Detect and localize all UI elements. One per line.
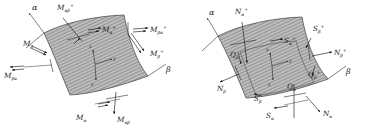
vector-m-ba-plus: Mβα+ <box>128 22 167 35</box>
triad-label-z-left: z <box>90 82 94 87</box>
vector-m-ba: Mβα <box>3 59 53 81</box>
axis-label-alpha-right: α <box>209 8 215 17</box>
figure-root: α β x y z Mαβ+ <box>0 0 367 128</box>
vector-m-b: Mβ <box>22 39 47 55</box>
triad-label-x-right: x <box>266 47 269 52</box>
label-s-b-plus: Sβ+ <box>313 24 324 34</box>
label-m-b-plus: Mβ+ <box>149 49 164 59</box>
label-m-ba: Mβα <box>3 71 17 81</box>
panel-moment-resultants: α β x y z Mαβ+ <box>0 0 184 128</box>
vector-m-a: Mα <box>75 99 120 123</box>
label-n-b-plus: Nβ+ <box>333 48 347 58</box>
vector-n-a: Nα <box>306 96 332 119</box>
label-m-a: Mα <box>75 113 86 123</box>
label-m-ab: Mαβ <box>116 115 130 125</box>
label-m-ba-plus: Mβα+ <box>149 25 167 35</box>
panel-force-resultants: α β x y z Nα+ Sα+ <box>184 0 367 128</box>
axis-beta-right: β <box>328 66 351 79</box>
axis-label-beta-right: β <box>345 67 351 76</box>
label-n-a-plus: Nα+ <box>234 7 248 17</box>
axis-alpha-right: α <box>202 8 218 51</box>
vector-s-b: Sβ <box>254 94 262 104</box>
triad-label-x-left: x <box>89 44 92 49</box>
label-s-a: Sα <box>266 111 274 121</box>
axis-beta-left: β <box>148 64 171 76</box>
vector-m-ab: Mαβ <box>106 92 130 125</box>
axis-label-beta-left: β <box>165 65 171 74</box>
label-m-ab-plus: Mαβ+ <box>56 3 74 13</box>
triad-label-z-right: z <box>267 82 271 87</box>
axis-label-alpha-left: α <box>32 3 38 12</box>
label-n-a: Nα <box>322 109 332 119</box>
label-m-b: Mβ <box>22 39 33 49</box>
vector-s-a: Sα <box>266 100 308 121</box>
shell-surface-left <box>44 15 148 95</box>
label-n-b: Nβ <box>216 84 226 94</box>
